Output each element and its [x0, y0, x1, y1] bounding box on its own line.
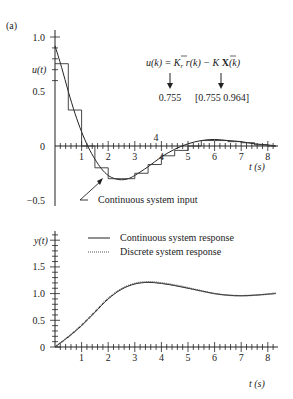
arrow-down-icon	[218, 73, 224, 89]
y-axis-label-u: u(t)	[32, 64, 47, 76]
x-tick-label: 6	[212, 352, 217, 363]
y-tick-label: −0.5	[27, 195, 45, 206]
response-chart: 1234567800.51.01.5 y(t) t (s) Continuous…	[33, 231, 279, 390]
x-tick-label: 3	[132, 352, 137, 363]
kr-value: 0.755	[159, 92, 182, 103]
legend: Continuous system response Discrete syst…	[88, 232, 234, 257]
continuous-response-series	[55, 282, 276, 347]
x-axis-label-bottom: t (s)	[249, 378, 266, 390]
x-tick-label: 7	[239, 352, 244, 363]
y-tick-label: 0	[40, 342, 45, 353]
response-chart-series	[55, 282, 276, 347]
legend-discrete: Discrete system response	[120, 246, 222, 257]
y-axis-label-y: y(t)	[33, 235, 49, 247]
top-tick-label-4: 4	[154, 132, 159, 143]
equation-text: u(k) = Kr r(k) − K X(k)	[146, 57, 241, 70]
input-label: Continuous system input	[98, 194, 198, 205]
figure-canvas: (a) 12345678−0.500.51.0 u(t) t (s) 4 u(k…	[0, 0, 293, 399]
x-tick-label: 8	[265, 352, 270, 363]
x-axis-label-top: t (s)	[249, 161, 266, 173]
x-tick-label: 4	[159, 352, 164, 363]
input-chart: 12345678−0.500.51.0 u(t) t (s) 4 u(k) = …	[27, 30, 278, 206]
x-tick-label: 2	[106, 352, 111, 363]
y-tick-label: 1.5	[33, 261, 46, 272]
y-tick-label: 1.0	[33, 32, 46, 43]
x-tick-label: 2	[106, 151, 111, 162]
x-tick-label: 6	[212, 151, 217, 162]
panel-label: (a)	[6, 20, 17, 32]
y-tick-label: 0	[40, 141, 45, 152]
y-tick-label: 1.0	[33, 288, 46, 299]
x-tick-label: 5	[186, 151, 191, 162]
y-tick-label: 0.5	[33, 315, 46, 326]
x-tick-label: 1	[79, 151, 84, 162]
y-tick-label: 0.5	[33, 86, 46, 97]
x-tick-label: 5	[186, 352, 191, 363]
x-tick-label: 8	[265, 151, 270, 162]
x-tick-label: 7	[239, 151, 244, 162]
x-tick-label: 3	[132, 151, 137, 162]
discrete-response-series	[55, 282, 276, 347]
arrow-down-icon	[167, 73, 173, 89]
k-value: [0.755 0.964]	[195, 92, 249, 103]
legend-continuous: Continuous system response	[120, 232, 234, 243]
x-tick-label: 1	[79, 352, 84, 363]
